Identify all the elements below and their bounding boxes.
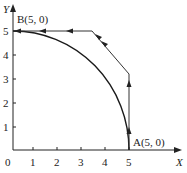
ticks [13, 31, 129, 150]
x-tick-2: 2 [54, 156, 60, 168]
y-axis-arrow-icon [10, 4, 16, 12]
y-tick-1: 1 [3, 121, 9, 133]
y-tick-5: 5 [3, 25, 9, 37]
arrow-up-icon [127, 80, 132, 87]
arrow-left-icon [39, 29, 46, 34]
point-a-label: A(5, 0) [133, 136, 165, 149]
y-tick-2: 2 [3, 97, 9, 109]
origin-label: 0 [5, 156, 11, 168]
x-tick-3: 3 [78, 156, 84, 168]
x-axis-arrow-icon [174, 147, 182, 153]
point-b-label: B(5, 0) [17, 13, 49, 26]
arrow-left-icon [14, 29, 21, 34]
arrow-left-icon [66, 29, 73, 34]
arrow-diagonal-icon [101, 41, 108, 47]
y-tick-4: 4 [3, 49, 9, 61]
y-tick-3: 3 [3, 73, 9, 85]
diagram-canvas: 0 1 2 3 4 5 X 1 2 3 4 5 Y B(5, 0) A(5, 0… [0, 0, 187, 173]
arrow-diagonal-icon [95, 34, 102, 40]
polyline-path [13, 31, 129, 150]
circular-arc-curve [13, 31, 129, 150]
x-tick-4: 4 [102, 156, 108, 168]
x-tick-5: 5 [126, 156, 132, 168]
x-tick-1: 1 [30, 156, 36, 168]
y-axis-label: Y [3, 3, 11, 15]
x-axis-label: X [175, 156, 184, 168]
axes [13, 8, 178, 150]
